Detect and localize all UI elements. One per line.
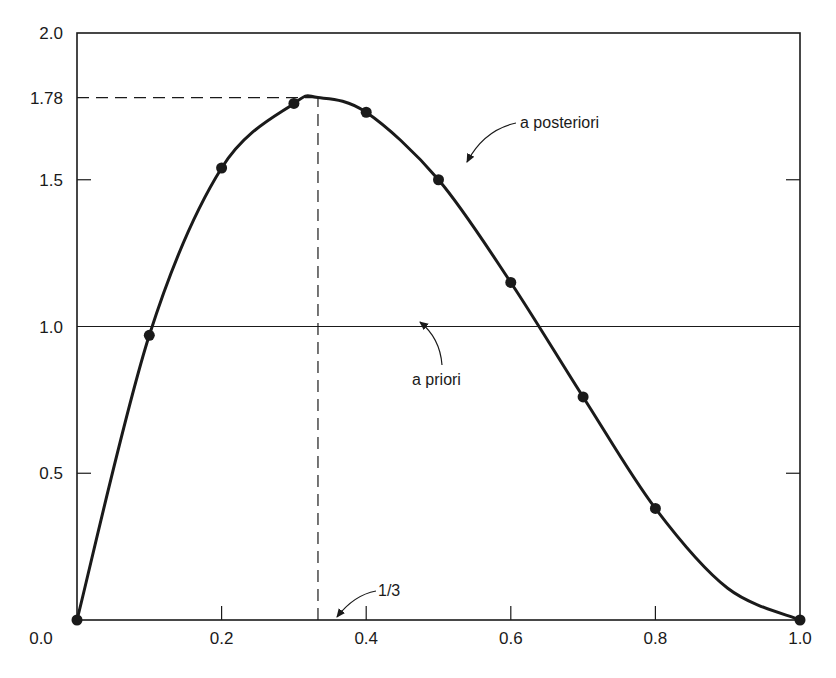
posterior-markers [72,98,806,626]
data-point-marker [795,615,806,626]
x-tick-labels: 0.00.20.40.60.81.0 [29,629,812,648]
y-tick-label: 2.0 [39,24,63,43]
x-ticks [222,606,656,620]
prior-arrow-icon [420,322,442,365]
x-tick-label: 0.2 [210,629,234,648]
y-tick-label: 1.78 [30,89,63,108]
x-tick-label: 1.0 [788,629,812,648]
data-point-marker [288,98,299,109]
data-point-marker [578,391,589,402]
mode-arrow-icon [337,591,376,617]
data-point-marker [505,277,516,288]
data-point-marker [361,107,372,118]
data-point-marker [216,163,227,174]
posterior-label: a posteriori [520,114,599,131]
y-tick-label: 1.5 [39,171,63,190]
data-point-marker [433,174,444,185]
x-tick-label: 0.8 [644,629,668,648]
posterior-arrow-icon [467,123,516,162]
mode-label: 1/3 [378,582,400,599]
data-point-marker [144,330,155,341]
data-point-marker [650,503,661,514]
x-tick-label: 0.0 [29,629,53,648]
beta-density-chart: 0.51.01.51.782.0 0.00.20.40.60.81.0 a po… [0,0,836,678]
y-tick-labels: 0.51.01.51.782.0 [30,24,63,483]
x-tick-label: 0.4 [354,629,378,648]
x-tick-label: 0.6 [499,629,523,648]
data-point-marker [72,615,83,626]
y-tick-label: 0.5 [39,464,63,483]
posterior-curve [77,96,800,620]
prior-label: a priori [412,371,461,388]
y-tick-label: 1.0 [39,318,63,337]
